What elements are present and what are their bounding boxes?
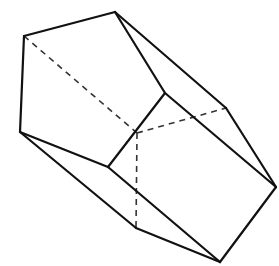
edge-HI [220, 187, 276, 262]
hidden-edge-AF [24, 36, 137, 133]
edge-AB [24, 12, 115, 36]
hidden-edges [24, 36, 226, 228]
visible-edges [20, 12, 276, 262]
edge-DI [108, 167, 220, 262]
hidden-edge-FJ [136, 133, 137, 228]
edge-CH [165, 93, 276, 187]
edge-EA [20, 36, 24, 132]
pentagonal-prism-diagram [0, 0, 279, 266]
edge-EJ [20, 132, 136, 228]
edge-IJ [136, 228, 220, 262]
edge-DE [20, 132, 108, 167]
edge-BG [115, 12, 226, 108]
edge-GH [226, 108, 276, 187]
edge-BC [115, 12, 165, 93]
